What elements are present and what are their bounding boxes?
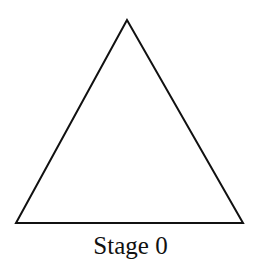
triangle-shape — [16, 20, 243, 223]
figure-caption: Stage 0 — [0, 231, 261, 261]
